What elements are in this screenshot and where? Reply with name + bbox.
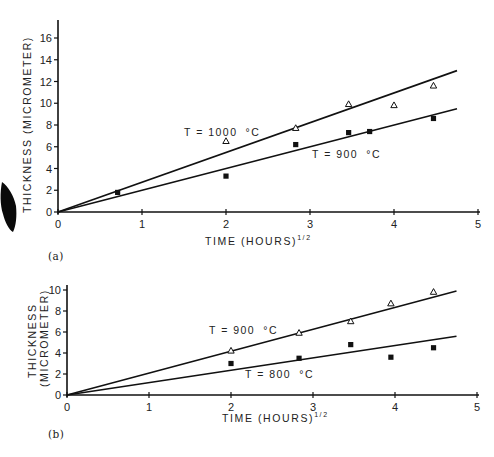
y-tick-label: 8 — [46, 119, 52, 131]
panel-b-x-axis-label: TIME (HOURS)1/2 — [222, 411, 329, 424]
x-tick-label: 0 — [55, 218, 61, 230]
square-marker — [293, 142, 298, 147]
triangle-marker — [345, 101, 351, 107]
triangle-marker — [223, 138, 229, 144]
y-tick-label: 6 — [55, 326, 61, 338]
panel-a-y-axis-label: THICKNESS (MICROMETER) — [21, 36, 33, 213]
square-marker — [431, 345, 436, 350]
square-marker — [348, 342, 353, 347]
y-tick-label: 0 — [55, 389, 61, 401]
panel-b-annotation-900c: T = 900°C — [209, 324, 278, 336]
figure: 0123450246810121416 0123450246810 THICKN… — [0, 0, 494, 457]
square-marker — [296, 356, 301, 361]
y-tick-label: 2 — [46, 184, 52, 196]
square-marker — [223, 174, 228, 179]
square-marker — [367, 129, 372, 134]
y-tick-label: 0 — [46, 206, 52, 218]
y-tick-label: 6 — [46, 141, 52, 153]
panel-a-annotation-900c: T = 900°C — [312, 148, 381, 160]
square-marker — [431, 116, 436, 121]
x-tick-label: 5 — [475, 218, 481, 230]
square-marker — [115, 190, 120, 195]
x-tick-label: 1 — [139, 218, 145, 230]
triangle-marker — [430, 82, 436, 88]
panel-a-x-axis-label: TIME (HOURS)1/2 — [205, 234, 312, 247]
triangle-marker — [430, 289, 436, 295]
square-marker — [388, 355, 393, 360]
panel-b-plot: 0123450246810 — [49, 284, 480, 413]
x-tick-label: 4 — [391, 218, 397, 230]
square-marker — [228, 361, 233, 366]
triangle-marker — [391, 102, 397, 108]
panel-b-label: (b) — [48, 428, 64, 440]
x-tick-label: 4 — [392, 401, 398, 413]
x-tick-label: 0 — [64, 401, 70, 413]
scan-artifact-blob — [1, 182, 17, 232]
x-tick-label: 1 — [146, 401, 152, 413]
fit-line — [58, 109, 457, 212]
square-marker — [346, 130, 351, 135]
y-tick-label: 4 — [55, 347, 61, 359]
x-tick-label: 2 — [223, 218, 229, 230]
panel-b-y-axis-label-line2: (MICROMETER) — [38, 289, 50, 387]
y-tick-label: 10 — [40, 97, 52, 109]
y-tick-label: 8 — [55, 305, 61, 317]
panel-a-plot: 0123450246810121416 — [40, 20, 481, 230]
x-tick-label: 3 — [307, 218, 313, 230]
panel-a-label: (a) — [48, 250, 64, 262]
panel-b-y-axis-label-line1: THICKNESS — [26, 304, 38, 379]
y-tick-label: 16 — [40, 32, 52, 44]
y-tick-label: 2 — [55, 368, 61, 380]
panel-b-annotation-800c: T = 800°C — [245, 368, 314, 380]
x-tick-label: 5 — [474, 401, 480, 413]
y-tick-label: 4 — [46, 163, 52, 175]
y-tick-label: 12 — [40, 76, 52, 88]
y-tick-label: 10 — [49, 284, 61, 296]
fit-line — [67, 336, 457, 395]
triangle-marker — [388, 300, 394, 306]
y-tick-label: 14 — [40, 54, 52, 66]
panel-a-annotation-1000c: T = 1000°C — [184, 126, 260, 138]
